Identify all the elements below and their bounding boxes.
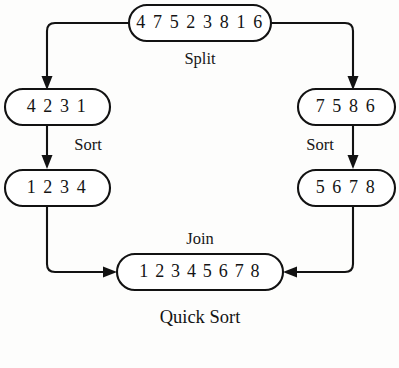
unsorted-array-node[interactable]: 4 7 5 2 3 8 1 6 (129, 5, 271, 41)
split-edge-left (42, 23, 130, 90)
sort-edge-left (42, 125, 53, 169)
left-sorted-node-label: 1 2 3 4 (27, 177, 88, 197)
arrowhead-split-left (42, 76, 53, 90)
arrowhead-sort-right (348, 155, 359, 169)
left-partition-node-label: 4 2 3 1 (27, 96, 88, 116)
join-edge-right (283, 206, 353, 278)
arrowhead-join-left (103, 267, 117, 278)
merged-sorted-node-label: 1 2 3 4 5 6 7 8 (139, 261, 261, 281)
diagram-canvas: 4 7 5 2 3 8 1 6 4 2 3 1 7 5 8 6 1 2 3 4 … (0, 0, 399, 368)
split-edge-label: Split (184, 49, 216, 68)
right-partition-node[interactable]: 7 5 8 6 (298, 89, 395, 125)
arrowhead-sort-left (42, 155, 53, 169)
sort-edge-label-left: Sort (74, 135, 102, 154)
diagram-caption: Quick Sort (160, 307, 242, 327)
left-partition-node[interactable]: 4 2 3 1 (5, 89, 110, 125)
right-sorted-node-label: 5 6 7 8 (316, 177, 377, 197)
join-edge-label: Join (186, 229, 214, 248)
sort-edge-right (348, 125, 359, 169)
quick-sort-diagram: 4 7 5 2 3 8 1 6 4 2 3 1 7 5 8 6 1 2 3 4 … (0, 0, 399, 368)
right-partition-node-label: 7 5 8 6 (316, 96, 377, 116)
left-sorted-node[interactable]: 1 2 3 4 (5, 170, 110, 206)
join-edge-left (47, 206, 117, 278)
unsorted-array-node-label: 4 7 5 2 3 8 1 6 (136, 12, 264, 32)
merged-sorted-node[interactable]: 1 2 3 4 5 6 7 8 (117, 254, 283, 290)
arrowhead-split-right (348, 76, 359, 90)
arrowhead-join-right (283, 267, 297, 278)
sort-edge-label-right: Sort (306, 135, 334, 154)
split-edge-right (271, 23, 359, 90)
right-sorted-node[interactable]: 5 6 7 8 (298, 170, 395, 206)
